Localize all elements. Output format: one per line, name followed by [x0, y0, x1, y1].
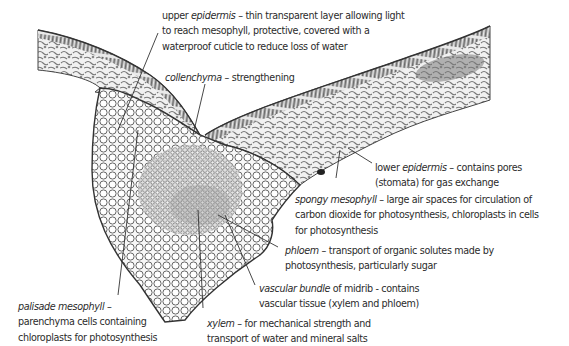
label-xylem: xylem – for mechanical strength and tran…	[207, 316, 371, 346]
label-lower-epidermis: lower epidermis – contains pores (stomat…	[375, 160, 522, 191]
label-vascular-bundle: vascular bundle of midrib - contains vas…	[259, 281, 419, 312]
stoma	[317, 169, 325, 175]
label-spongy-mesophyll: spongy mesophyll – large air spaces for …	[295, 192, 539, 238]
leaf-section-diagram: upper upper epidermisepidermis – thin tr…	[0, 0, 569, 346]
label-collenchyma: collenchyma – strengthening	[165, 70, 294, 85]
label-phloem: phloem – transport of organic solutes ma…	[285, 243, 494, 274]
label-palisade-mesophyll: palisade mesophyll – parenchyma cells co…	[18, 299, 157, 345]
label-upper-epidermis: upper upper epidermisepidermis – thin tr…	[162, 8, 404, 54]
